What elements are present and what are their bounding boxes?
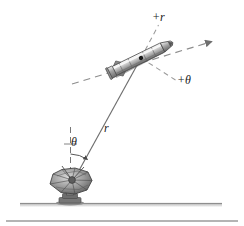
label-plus-theta: +θ <box>177 74 191 86</box>
physics-diagram-figure: +r +θ r θ <box>0 0 244 226</box>
ground-line <box>20 203 222 207</box>
label-plus-r: +r <box>152 11 165 23</box>
diagram-canvas <box>0 0 244 226</box>
label-theta: θ <box>71 136 77 148</box>
label-r: r <box>104 122 109 134</box>
missile <box>104 35 176 82</box>
radar-dish <box>50 166 92 206</box>
